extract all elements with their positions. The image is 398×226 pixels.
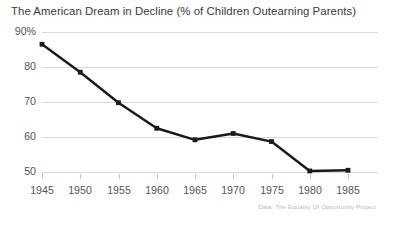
data-point-marker: [231, 131, 236, 136]
plot-area: 5060708090% 1945195019551960196519701975…: [0, 0, 398, 226]
data-point-marker: [346, 168, 351, 173]
data-series-group: [0, 0, 398, 226]
data-point-marker: [116, 100, 121, 105]
data-point-marker: [154, 126, 159, 131]
data-point-marker: [78, 70, 83, 75]
source-attribution: Data: The Equality Of Opportunity Projec…: [258, 203, 376, 210]
data-point-marker: [307, 169, 312, 174]
data-point-marker: [269, 139, 274, 144]
data-point-marker: [193, 137, 198, 142]
series-markers: [40, 42, 351, 174]
series-line: [42, 44, 348, 171]
data-point-marker: [40, 42, 45, 47]
chart-figure: The American Dream in Decline (% of Chil…: [0, 0, 398, 226]
